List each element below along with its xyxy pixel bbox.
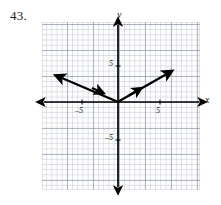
x-axis-tick-label-negative-5: –5 <box>75 106 83 115</box>
y-axis-label: y <box>117 9 121 20</box>
coordinate-plane-plot <box>0 0 221 205</box>
axis-tick-marks <box>82 66 160 140</box>
graph-problem-figure: 43. <box>0 0 221 205</box>
y-axis-tick-label-negative-5: –5 <box>105 133 113 142</box>
x-axis-label: x <box>205 94 209 105</box>
x-axis-tick-label-5: 5 <box>156 106 160 115</box>
y-axis-tick-label-5: 5 <box>109 59 113 68</box>
plotted-curve-absolute-value <box>63 75 165 102</box>
